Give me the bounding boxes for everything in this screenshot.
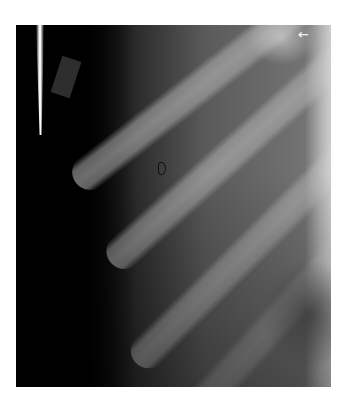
white-arrow-icon: ← [298, 28, 309, 41]
lower-shading [16, 25, 331, 387]
open-arrow-icon [158, 162, 166, 175]
radiograph-image: ← [16, 25, 331, 387]
